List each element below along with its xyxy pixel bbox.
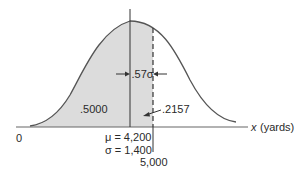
left-area-label: .5000 <box>80 103 108 115</box>
std-dev-label: σ = 1,400 <box>105 144 152 156</box>
x-axis-var: x <box>250 121 257 133</box>
x-axis-label: (yards) <box>260 121 294 133</box>
origin-label: 0 <box>16 132 22 144</box>
mean-label: μ = 4,200 <box>105 131 151 143</box>
value-label: 5,000 <box>140 156 168 168</box>
right-area-label: .2157 <box>162 103 190 115</box>
right-arrowhead-icon <box>153 72 158 77</box>
normal-curve-diagram: .57σ .2157 .5000 0 x (yards) μ = 4,200 σ… <box>0 0 301 177</box>
z-distance-label: .57σ <box>132 68 154 80</box>
